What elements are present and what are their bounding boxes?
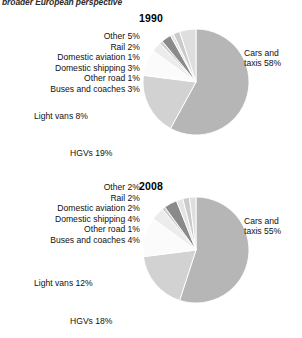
slice-label-stack-2008: Other 2% Rail 2% Domestic aviation 2% Do… xyxy=(50,182,140,246)
slice-label-hgvs-1990: HGVs 19% xyxy=(70,148,113,158)
figure-root: broader European perspective 1990 Cars a… xyxy=(0,0,302,338)
slice-label-domestic-aviation-1990: Domestic aviation 1% xyxy=(50,52,140,63)
slice-label-other-1990: Other 5% xyxy=(50,31,140,42)
slice-label-buses-and-coaches-1990: Buses and coaches 3% xyxy=(50,84,140,95)
slice-label-other-road-1990: Other road 1% xyxy=(50,73,140,84)
pie-graphic-2008 xyxy=(140,194,252,306)
pie-graphic-1990 xyxy=(140,26,252,138)
slice-label-domestic-aviation-2008: Domestic aviation 2% xyxy=(50,203,140,214)
slice-label-cars-and-taxis-1990: Cars and taxis 58% xyxy=(244,48,281,69)
slice-label-stack-1990: Other 5% Rail 2% Domestic aviation 1% Do… xyxy=(50,31,140,95)
slice-label-buses-and-coaches-2008: Buses and coaches 4% xyxy=(50,235,140,246)
slice-label-line: Cars and xyxy=(244,48,281,58)
chart-title-1990: 1990 xyxy=(0,12,302,24)
slice-label-hgvs-2008: HGVs 18% xyxy=(70,316,113,326)
slice-label-other-road-2008: Other road 1% xyxy=(50,224,140,235)
slice-label-other-2008: Other 2% xyxy=(50,182,140,193)
slice-label-domestic-shipping-1990: Domestic shipping 3% xyxy=(50,63,140,74)
pie-chart-1990: 1990 Cars and taxis 58% Other 5% Rail 2%… xyxy=(0,0,302,170)
slice-label-cars-and-taxis-2008: Cars and taxis 55% xyxy=(244,216,281,237)
slice-label-line: taxis 58% xyxy=(244,58,281,68)
pie-svg-1990 xyxy=(140,26,252,138)
slice-label-light-vans-1990: Light vans 8% xyxy=(34,111,88,121)
slice-label-line: Cars and xyxy=(244,216,281,226)
pie-svg-2008 xyxy=(140,194,252,306)
slice-label-light-vans-2008: Light vans 12% xyxy=(34,278,93,288)
slice-label-domestic-shipping-2008: Domestic shipping 4% xyxy=(50,214,140,225)
slice-label-line: taxis 55% xyxy=(244,226,281,236)
slice-label-rail-1990: Rail 2% xyxy=(50,42,140,53)
pie-chart-2008: 2008 Cars and taxis 55% Other 2% Rail 2%… xyxy=(0,168,302,338)
slice-label-rail-2008: Rail 2% xyxy=(50,193,140,204)
chart-title-2008: 2008 xyxy=(0,180,302,192)
